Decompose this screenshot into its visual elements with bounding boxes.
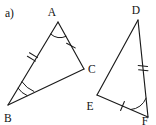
tick-mark bbox=[138, 66, 147, 67]
vertex-label-f: F bbox=[142, 115, 148, 125]
side-ac-tick-marks bbox=[67, 43, 76, 48]
angle-arc bbox=[131, 98, 147, 109]
triangle-pair-diagram: a) A B bbox=[0, 0, 156, 125]
vertex-label-c: C bbox=[88, 63, 96, 75]
angle-arc bbox=[51, 34, 66, 38]
angle-arc bbox=[18, 88, 27, 95]
triangle-abc: A B C bbox=[4, 6, 96, 124]
tick-mark bbox=[27, 56, 35, 61]
side-df bbox=[138, 20, 148, 117]
vertex-label-b: B bbox=[4, 112, 12, 124]
triangle-def: D E F bbox=[86, 4, 148, 125]
angle-arc bbox=[22, 82, 34, 92]
side-de bbox=[97, 20, 138, 95]
angle-a-arcs bbox=[51, 34, 66, 38]
tick-mark bbox=[139, 70, 148, 71]
tick-mark bbox=[67, 43, 76, 48]
tick-mark bbox=[30, 53, 38, 58]
vertex-label-d: D bbox=[132, 4, 140, 16]
vertex-label-e: E bbox=[86, 100, 93, 112]
geometry-figure: a) A B bbox=[0, 0, 156, 125]
side-ab-tick-marks bbox=[27, 53, 37, 61]
angle-f-arcs bbox=[131, 98, 147, 109]
part-label: a) bbox=[5, 7, 14, 20]
vertex-label-a: A bbox=[48, 6, 57, 18]
